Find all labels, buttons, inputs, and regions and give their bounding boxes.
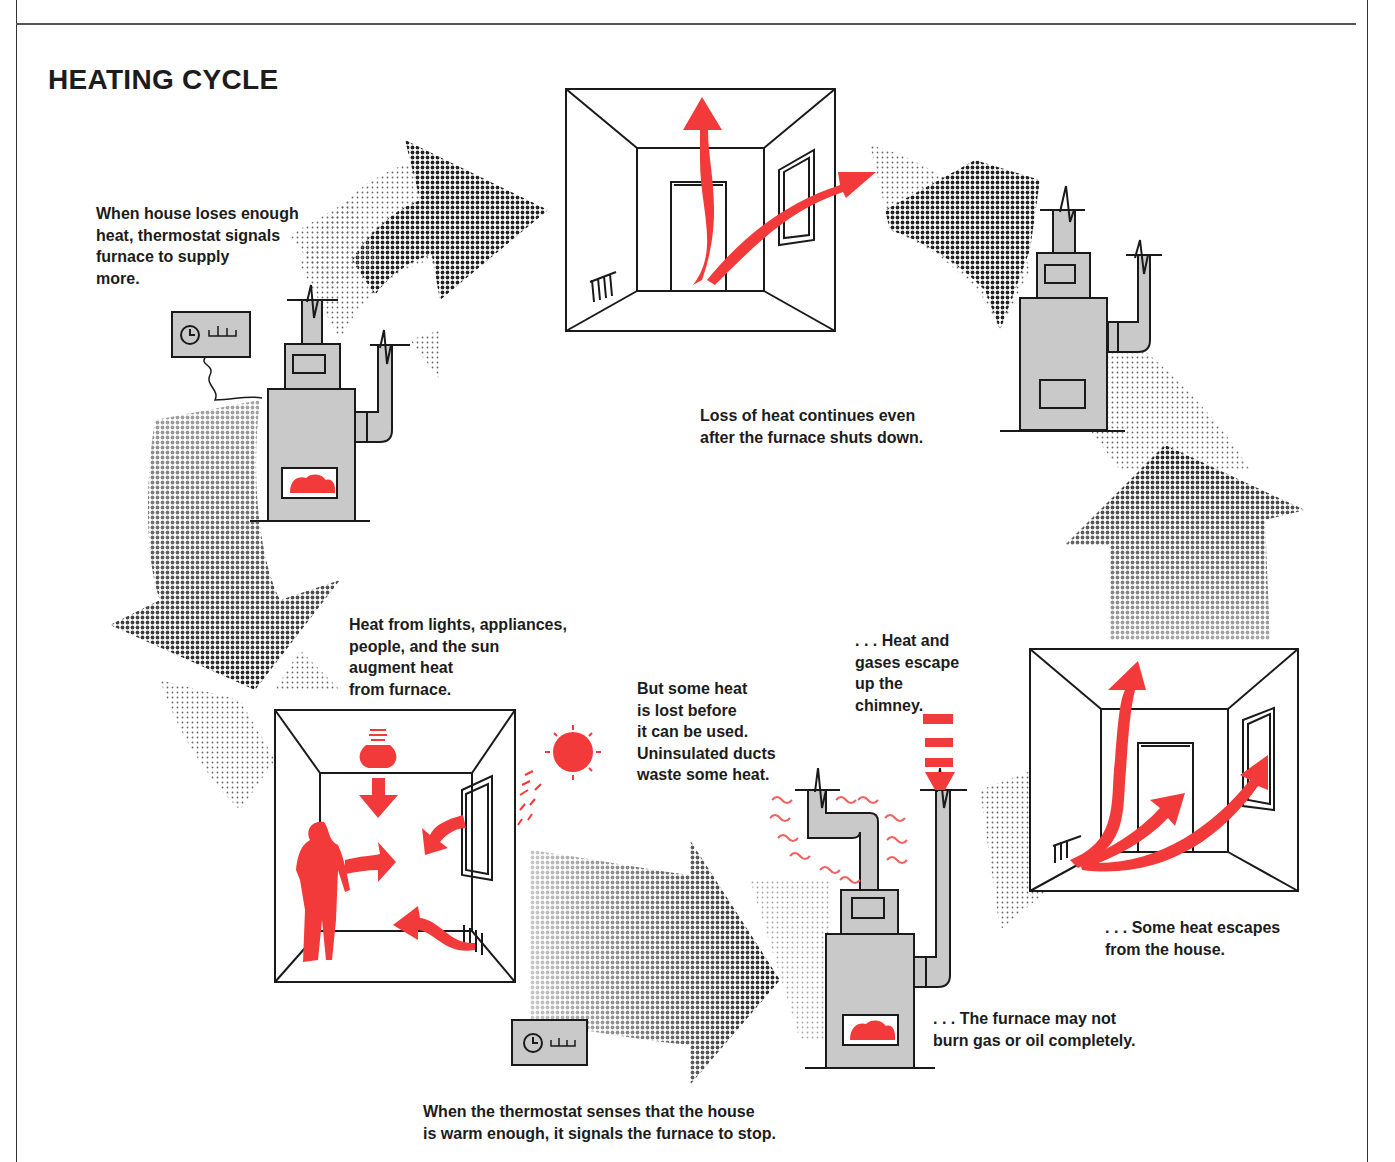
chimney-gas-bands (923, 714, 955, 790)
heat-waves-ducts (770, 797, 907, 883)
thermostat-bottom (512, 1020, 587, 1065)
caption-house-escape: . . . Some heat escapes from the house. (1105, 917, 1280, 960)
cycle-arrow-right-up (1065, 445, 1305, 640)
diagram-title: HEATING CYCLE (48, 64, 279, 96)
caption-heat-lost-ducts: But some heat is lost before it can be u… (637, 678, 776, 786)
caption-thermostat-stop: When the thermostat senses that the hous… (423, 1101, 776, 1144)
heating-cycle-page: HEATING CYCLE When house loses enough he… (0, 0, 1395, 1162)
caption-chimney-escape: . . . Heat and gases escape up the chimn… (855, 630, 959, 716)
caption-thermostat-signals: When house loses enough heat, thermostat… (96, 203, 299, 289)
heating-cycle-illustration (0, 0, 1395, 1162)
caption-heat-augment: Heat from lights, appliances, people, an… (349, 614, 567, 700)
caption-incomplete-burn: . . . The furnace may not burn gas or oi… (933, 1008, 1135, 1051)
caption-heat-loss-continues: Loss of heat continues even after the fu… (700, 405, 923, 448)
